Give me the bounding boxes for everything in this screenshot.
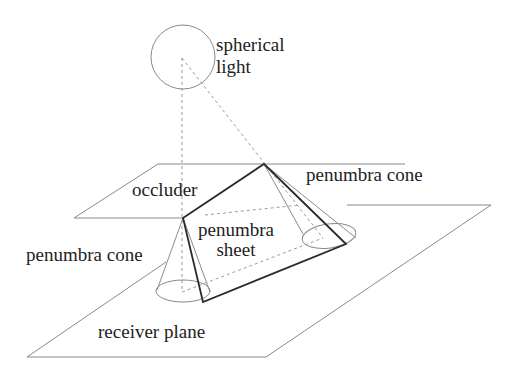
spherical-light: [151, 25, 215, 89]
diagram-canvas: spherical light occluder penumbra cone p…: [0, 0, 513, 376]
label-occluder: occluder: [132, 180, 197, 200]
label-spherical-light-line1: spherical: [216, 35, 285, 55]
label-penumbra-cone-left: penumbra cone: [26, 245, 143, 265]
label-penumbra-sheet-line1: penumbra: [196, 220, 276, 240]
label-penumbra-sheet-line2: sheet: [196, 240, 276, 260]
label-spherical-light-line2: light: [216, 57, 251, 77]
label-penumbra-cone-right: penumbra cone: [306, 165, 423, 185]
diagram-graphics: [0, 0, 513, 376]
label-receiver-plane: receiver plane: [98, 322, 205, 342]
